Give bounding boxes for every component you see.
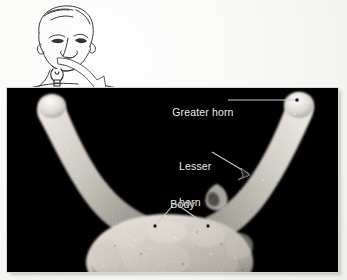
anatomy-figure: Greater horn Lesser horn Body (0, 0, 347, 280)
label-lesser-horn-line1: Lesser (179, 160, 211, 172)
label-greater-horn-text: Greater horn (172, 106, 233, 118)
label-body: Body (158, 186, 195, 222)
label-greater-horn: Greater horn (160, 94, 234, 130)
label-body-text: Body (170, 198, 195, 210)
